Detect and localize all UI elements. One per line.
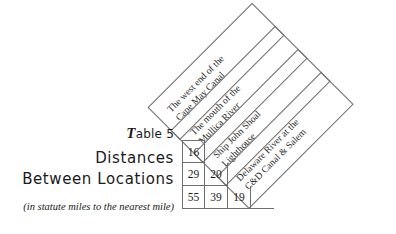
distance-cell-empty — [251, 186, 274, 209]
distance-cell: 19 — [228, 186, 251, 209]
distance-cell: 29 — [182, 163, 205, 186]
distance-cell: 39 — [205, 186, 228, 209]
table-number-dropcap: T — [126, 125, 135, 141]
figure-caption-block: Table 5 Distances Between Locations (in … — [0, 126, 178, 213]
table-number: Table 5 — [0, 126, 178, 142]
table-row: 16 — [182, 140, 274, 163]
units-note: (in statute miles to the nearest mile) — [0, 200, 178, 213]
distance-table-figure: The west end of the Cape May CanalThe mo… — [0, 0, 396, 234]
table-number-rest: able 5 — [136, 127, 174, 141]
page-title-line-1: Distances — [0, 148, 174, 169]
table-row: 2920 — [182, 163, 274, 186]
distance-grid: 162920553919 — [182, 140, 274, 209]
distance-cell: 55 — [182, 186, 205, 209]
page-title-line-2: Between Locations — [0, 169, 174, 190]
distance-cell: 16 — [182, 140, 205, 163]
distance-cell: 20 — [205, 163, 228, 186]
page-title: Distances Between Locations — [0, 148, 178, 190]
table-row: 553919 — [182, 186, 274, 209]
